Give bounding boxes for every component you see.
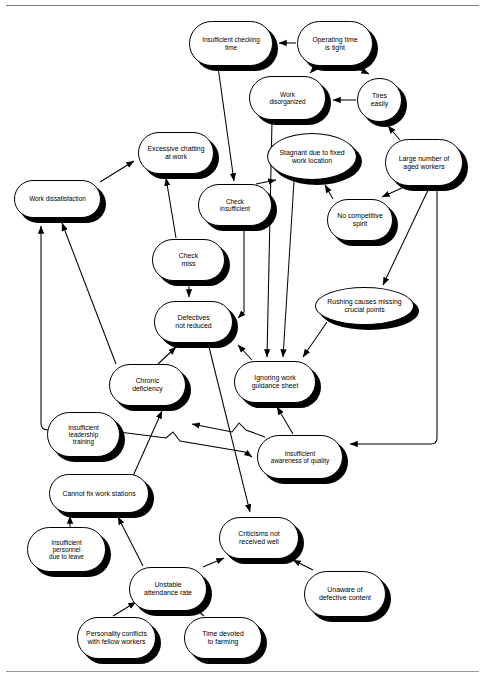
node-label: Personality conflictswith fellow workers <box>83 630 150 645</box>
diagram-node[interactable]: Excessive chattingat work <box>138 132 214 174</box>
diagram-node[interactable]: Cannot fix work stations <box>49 474 149 513</box>
diagram-node[interactable]: Insufficientleadershiptraining <box>47 412 120 457</box>
diagram-node[interactable]: Time devotedto farming <box>184 617 262 659</box>
node-label: Insufficientawareness of quality <box>268 450 332 464</box>
node-label: Checkinsufficient <box>217 198 253 212</box>
diagram-node[interactable]: Insufficient checkingtime <box>189 21 273 66</box>
edge-layer <box>0 0 485 681</box>
node-label: No competitivespirit <box>334 212 386 227</box>
edge-ignoring-work-to-defectives <box>238 345 252 360</box>
edge-check-insufficient-to-defectives <box>238 227 244 318</box>
diagram-node[interactable]: Checkmiss <box>152 239 225 281</box>
node-label: Chronicdeficiency <box>129 377 166 392</box>
edge-aged-workers-to-no-competitive-spirit <box>382 187 404 197</box>
diagram-node[interactable]: Personality conflictswith fellow workers <box>77 617 156 659</box>
edge-no-competitive-to-stagnant <box>325 185 333 199</box>
diagram-node[interactable]: Unstableattendance rate <box>129 567 207 611</box>
diagram-node[interactable]: Unaware ofdefective content <box>304 571 386 617</box>
node-label: Large number ofaged workers <box>396 155 453 170</box>
diagram-node[interactable]: Defectivesnot reduced <box>154 301 233 343</box>
edge-unstable-attendance-to-cannot-fix <box>118 517 143 566</box>
node-label: Work dissatisfaction <box>26 195 89 202</box>
diagram-node[interactable]: Rushing causes missingcrucial points <box>315 287 414 325</box>
node-label: Insufficientleadershiptraining <box>65 424 101 446</box>
node-label: Stagnant due to fixedwork location <box>276 149 347 164</box>
diagram-node[interactable]: Tireseasily <box>357 78 402 122</box>
diagram-node[interactable]: Criticisms notreceived well <box>219 517 299 559</box>
diagram-node[interactable]: Ignoring workguidance sheet <box>234 361 316 403</box>
node-label: Defectivesnot reduced <box>172 314 214 329</box>
edge-stagnant-to-ignoring-work <box>283 181 294 357</box>
node-label: Insufficient checkingtime <box>199 36 262 50</box>
node-label: Time devotedto farming <box>199 630 247 645</box>
diagram-node[interactable]: Work dissatisfaction <box>14 180 101 218</box>
edge-work-dissatisfaction-to-excessive-chatting <box>100 161 134 182</box>
diagram-node[interactable]: Chronicdeficiency <box>109 364 186 406</box>
node-label: Checkmiss <box>176 252 202 267</box>
edge-cannot-fix-stations-to-chronic-deficiency <box>133 411 162 476</box>
diagram-node[interactable]: Stagnant due to fixedwork location <box>267 133 357 180</box>
node-label: Insufficientpersonneldue to leave <box>46 539 87 561</box>
edge-check-miss-to-excessive-chatting <box>166 178 176 238</box>
node-label: Criticisms notreceived well <box>235 530 282 545</box>
edge-personality-conflicts-to-unstable <box>113 602 136 616</box>
node-label: Cannot fix work stations <box>59 490 138 498</box>
diagram-node[interactable]: Insufficientawareness of quality <box>257 435 343 479</box>
diagram-canvas: Insufficient checkingtimeOperating timei… <box>0 0 485 681</box>
diagram-node[interactable]: No competitivespirit <box>327 199 393 241</box>
diagram-node[interactable]: Checkinsufficient <box>198 184 272 226</box>
node-label: Operating timeis tight <box>309 36 360 51</box>
diagram-node[interactable]: Workdisorganized <box>249 76 326 120</box>
node-label: Ignoring workguidance sheet <box>249 374 302 389</box>
edge-aged-workers-to-tires-easily <box>388 126 400 140</box>
edge-insufficient-awareness-to-ignoring-work <box>277 407 293 434</box>
node-label: Unaware ofdefective content <box>316 586 374 601</box>
edge-insufficient-checking-to-check-insufficient <box>218 67 234 181</box>
node-label: Unstableattendance rate <box>141 581 195 596</box>
diagram-node[interactable]: Large number ofaged workers <box>385 139 463 186</box>
edge-unaware-defective-to-criticisms <box>293 560 313 570</box>
edge-insufficient-leadership-to-insufficient-awareness <box>119 432 252 457</box>
node-label: Excessive chattingat work <box>144 145 207 160</box>
edge-insufficient-leadership-to-work-dissatisfaction <box>41 226 48 430</box>
diagram-node[interactable]: Insufficientpersonneldue to leave <box>27 527 106 572</box>
edge-unstable-attendance-to-criticisms <box>203 558 224 567</box>
edge-rushing-to-ignoring-work <box>303 322 327 357</box>
node-label: Tireseasily <box>368 92 392 107</box>
edge-check-insufficient-to-stagnant <box>256 180 276 184</box>
edge-chronic-deficiency-to-work-dissatisfaction <box>62 223 116 364</box>
node-label: Rushing causes missingcrucial points <box>324 298 404 313</box>
diagram-node[interactable]: Operating timeis tight <box>297 21 373 66</box>
edge-chronic-deficiency-to-defectives <box>158 347 176 364</box>
node-label: Workdisorganized <box>266 91 308 105</box>
